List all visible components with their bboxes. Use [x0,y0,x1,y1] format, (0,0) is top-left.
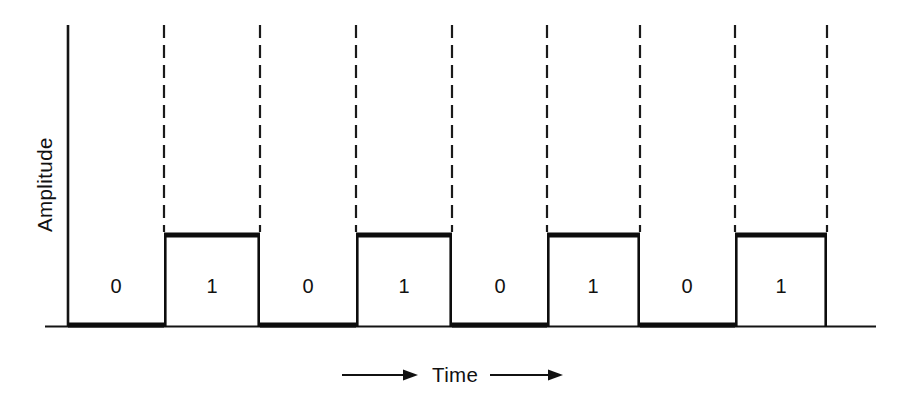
bit-labels-group: 0 1 0 1 0 1 0 1 [110,275,786,297]
x-axis-title-group: Time [342,363,563,386]
waveform-chart: 0 1 0 1 0 1 0 1 Amplitude Time [0,0,900,409]
bit-label-5: 1 [587,275,598,297]
y-axis-title: Amplitude [33,137,56,232]
bit-label-1: 1 [206,275,217,297]
gridlines-group [164,25,827,232]
bit-label-3: 1 [398,275,409,297]
bit-label-6: 0 [681,275,692,297]
figure-container: 0 1 0 1 0 1 0 1 Amplitude Time [0,0,900,409]
bit-label-2: 0 [302,275,313,297]
bit-label-0: 0 [110,275,121,297]
bit-label-7: 1 [775,275,786,297]
arrow-right-icon-left [342,370,418,381]
x-axis-title: Time [432,363,478,386]
signal-horizontal-segments [68,235,827,325]
arrow-right-icon-right [490,370,563,381]
arrow-left-head [403,370,418,381]
bit-label-4: 0 [494,275,505,297]
arrow-right-head [548,370,563,381]
